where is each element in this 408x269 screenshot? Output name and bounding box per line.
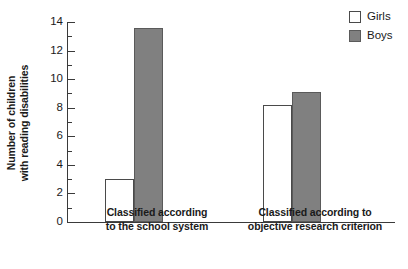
- y-axis-title-line-1: Number of children: [5, 13, 18, 233]
- y-tick-minor: [68, 93, 72, 94]
- y-tick-label: 14: [50, 16, 63, 28]
- y-tick-major: 14: [68, 22, 75, 23]
- y-tick-label: 12: [50, 45, 63, 57]
- x-axis-category-label-1: Classified according to the school syste…: [67, 206, 247, 233]
- y-tick-major: 2: [68, 193, 75, 194]
- y-tick-minor: [68, 65, 72, 66]
- y-tick-label: 10: [50, 73, 63, 85]
- y-tick-major: 6: [68, 136, 75, 137]
- bar-chart: Number of children with reading disabili…: [0, 0, 408, 269]
- y-tick-minor: [68, 122, 72, 123]
- legend-swatch-boys-icon: [349, 30, 361, 42]
- y-tick-major: 4: [68, 165, 75, 166]
- legend-label-boys: Boys: [367, 30, 393, 42]
- y-tick-minor: [68, 36, 72, 37]
- y-tick-minor: [68, 151, 72, 152]
- legend-item-girls: Girls: [349, 10, 393, 24]
- category-2-line-2: objective research criterion: [225, 220, 405, 234]
- legend-label-girls: Girls: [367, 11, 391, 23]
- bar-boys-group-2: [292, 92, 321, 222]
- category-2-line-1: Classified according to: [225, 206, 405, 220]
- y-tick-label: 2: [57, 188, 63, 200]
- y-tick-label: 0: [57, 216, 63, 228]
- legend-swatch-girls-icon: [349, 11, 361, 23]
- plot-area: 02468101214: [67, 22, 395, 222]
- y-tick-label: 4: [57, 159, 63, 171]
- x-axis-category-label-2: Classified according to objective resear…: [225, 206, 405, 233]
- y-tick-major: 10: [68, 79, 75, 80]
- bar-girls-group-2: [263, 105, 292, 222]
- legend: Girls Boys: [349, 10, 393, 48]
- category-1-line-2: to the school system: [67, 220, 247, 234]
- bar-boys-group-1: [134, 28, 163, 222]
- category-1-line-1: Classified according: [67, 206, 247, 220]
- y-tick-label: 8: [57, 102, 63, 114]
- y-tick-minor: [68, 179, 72, 180]
- legend-item-boys: Boys: [349, 29, 393, 43]
- y-tick-major: 12: [68, 51, 75, 52]
- y-tick-major: 8: [68, 108, 75, 109]
- y-tick-label: 6: [57, 131, 63, 143]
- y-axis-title: Number of children with reading disabili…: [5, 13, 39, 233]
- y-axis-title-line-2: with reading disabilities: [18, 13, 31, 233]
